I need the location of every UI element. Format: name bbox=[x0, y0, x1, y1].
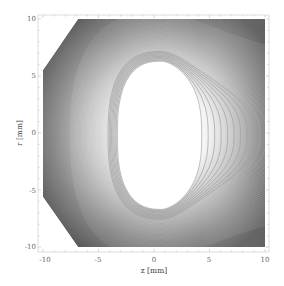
x-axis: -10 -5 0 5 10 z [mm] bbox=[39, 256, 269, 275]
y-tick-label: 5 bbox=[32, 72, 36, 80]
x-tick-label: 10 bbox=[261, 256, 270, 264]
x-tick-label: -5 bbox=[95, 256, 102, 264]
y-tick-label: 10 bbox=[27, 15, 36, 23]
x-axis-label: z [mm] bbox=[141, 266, 167, 275]
y-tick-label: 0 bbox=[32, 129, 36, 137]
contour-field bbox=[43, 12, 284, 258]
y-axis-label: r [mm] bbox=[15, 120, 24, 146]
x-tick-label: 0 bbox=[152, 256, 156, 264]
x-tick-label: 5 bbox=[207, 256, 211, 264]
contour-plot: -10 -5 0 5 10 z [mm] 10 5 0 -5 -10 r [mm… bbox=[0, 0, 284, 286]
y-axis: 10 5 0 -5 -10 r [mm] bbox=[15, 15, 36, 251]
central-lobe bbox=[117, 61, 201, 209]
x-tick-label: -10 bbox=[39, 256, 50, 264]
y-tick-label: -10 bbox=[25, 243, 36, 251]
y-tick-label: -5 bbox=[29, 187, 36, 195]
